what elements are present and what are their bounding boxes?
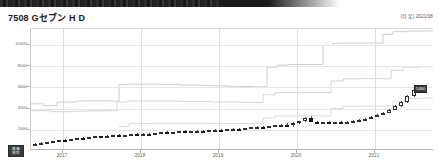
candlestick-body xyxy=(261,127,265,129)
gridline-horizontal xyxy=(31,45,433,46)
banner-right-blank xyxy=(340,0,438,7)
gridline-horizontal xyxy=(31,66,433,67)
candlestick-body xyxy=(117,135,121,137)
gridline-vertical xyxy=(141,29,142,149)
candlestick-body xyxy=(363,119,367,121)
candlestick-body xyxy=(45,142,49,144)
candlestick-body xyxy=(171,132,175,134)
candlestick-body xyxy=(351,121,355,123)
chart-canvas xyxy=(31,29,433,149)
candlestick-body xyxy=(153,133,157,135)
candlestick-body xyxy=(387,110,391,113)
candlestick-body xyxy=(255,127,259,129)
candlestick-body xyxy=(111,135,115,137)
candlestick-body xyxy=(177,131,181,133)
candlestick-body xyxy=(93,136,97,138)
candlestick-body xyxy=(57,140,61,142)
value-step-line xyxy=(31,31,433,106)
candlestick-body xyxy=(183,131,187,133)
x-axis-label: 2021 xyxy=(369,153,380,158)
candlestick-body xyxy=(135,134,139,136)
candlestick-body xyxy=(273,125,277,127)
candlestick-body xyxy=(201,131,205,133)
candlestick-body xyxy=(297,121,301,123)
candlestick-body xyxy=(141,134,145,136)
candlestick-body xyxy=(99,136,103,138)
gridline-vertical xyxy=(297,29,298,149)
candlestick-body xyxy=(315,122,319,124)
candlestick-body xyxy=(87,137,91,139)
candlestick-body xyxy=(381,113,385,115)
y-axis-tick xyxy=(27,129,30,130)
candlestick-body xyxy=(81,138,85,140)
candlestick-body xyxy=(375,115,379,117)
candlestick-body xyxy=(63,140,67,142)
candlestick-body xyxy=(327,122,331,124)
top-banner xyxy=(0,0,438,7)
candlestick-body xyxy=(285,125,289,127)
y-axis-label: 10000 xyxy=(2,41,27,46)
y-axis-label: 6000 xyxy=(2,84,27,89)
y-axis-label: 8000 xyxy=(2,63,27,68)
candlestick-body xyxy=(399,102,403,106)
candlestick-body xyxy=(249,127,253,129)
candlestick-body xyxy=(213,130,217,132)
candlestick-body xyxy=(105,136,109,138)
gridline-horizontal xyxy=(31,109,433,110)
y-axis-tick xyxy=(27,86,30,87)
candlestick-body xyxy=(345,122,349,124)
candlestick-body xyxy=(33,144,37,146)
banner-fade xyxy=(220,0,340,7)
x-axis-label: 2018 xyxy=(135,153,146,158)
theoretical-value-lines xyxy=(31,29,433,149)
candlestick-body xyxy=(303,118,307,121)
candlestick-body xyxy=(69,139,73,141)
y-axis-tick xyxy=(27,44,30,45)
candlestick-body xyxy=(159,132,163,134)
axis-corner-badge: 株価 倍率 xyxy=(8,145,24,157)
candlestick-body xyxy=(267,126,271,128)
candlestick-body xyxy=(207,130,211,132)
candlestick-body xyxy=(39,143,43,145)
candlestick-body xyxy=(165,132,169,134)
candlestick-body xyxy=(279,125,283,127)
y-axis-tick xyxy=(27,65,30,66)
page-title: 7508 Gセブン H D xyxy=(8,11,85,24)
candlestick-body xyxy=(291,123,295,125)
candlestick-body xyxy=(219,130,223,132)
candlestick-body xyxy=(231,129,235,131)
candlestick-body xyxy=(393,106,397,109)
banner-texture xyxy=(0,0,230,7)
candlestick-body xyxy=(369,117,373,119)
gridline-horizontal xyxy=(31,87,433,88)
current-price-tag: 5,800 xyxy=(414,85,427,93)
candlestick-body xyxy=(243,128,247,130)
candlestick-body xyxy=(189,131,193,133)
candlestick-body xyxy=(75,138,79,140)
candlestick-body xyxy=(309,118,313,122)
x-axis-label: 2020 xyxy=(291,153,302,158)
candlestick-body xyxy=(321,122,325,124)
candlestick-body xyxy=(225,129,229,131)
candlestick-body xyxy=(129,134,133,136)
value-step-line xyxy=(31,67,433,112)
value-step-line xyxy=(119,98,433,127)
chart-period-label: (月足) 2021/08 xyxy=(401,13,433,19)
gridline-vertical xyxy=(63,29,64,149)
x-axis-label: 2019 xyxy=(213,153,224,158)
chart-plot-area xyxy=(30,28,433,150)
y-axis-label: 4000 xyxy=(2,105,27,110)
candlestick-body xyxy=(237,129,241,131)
candlestick-body xyxy=(123,135,127,137)
x-axis-label: 2017 xyxy=(57,153,68,158)
y-axis-tick xyxy=(27,108,30,109)
candlestick-body xyxy=(195,131,199,133)
candlestick-body xyxy=(147,134,151,136)
y-axis-label: 2000 xyxy=(2,126,27,131)
candlestick-body xyxy=(339,122,343,124)
candlestick-body xyxy=(333,122,337,124)
candlestick-body xyxy=(51,141,55,143)
stock-chart-page: 7508 Gセブン H D (月足) 2021/08 5,800 株価 倍率 2… xyxy=(0,0,438,168)
candlestick-body xyxy=(357,120,361,122)
corner-badge-line2: 倍率 xyxy=(9,151,23,155)
